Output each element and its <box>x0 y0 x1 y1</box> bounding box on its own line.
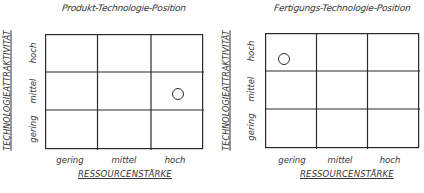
chart-title: Produkt-Technologie-Position <box>61 3 186 13</box>
x-axis-title: RESSOURCENSTÄRKE <box>78 169 172 179</box>
position-marker-circle <box>172 88 184 100</box>
x-label-gering: gering <box>45 155 95 165</box>
chart-title: Fertigungs-Technologie-Position <box>273 3 411 13</box>
y-label-hoch: hoch <box>246 32 256 70</box>
y-label-gering: gering <box>246 108 256 146</box>
x-axis-title: RESSOURCENSTÄRKE <box>300 169 394 179</box>
matrix-grid <box>265 33 420 149</box>
position-marker-circle <box>278 53 290 65</box>
x-label-hoch: hoch <box>150 155 200 165</box>
manufacturing-technology-position-panel: Fertigungs-Technologie-Position TECHNOLO… <box>212 0 424 193</box>
y-label-hoch: hoch <box>28 34 38 72</box>
x-label-gering: gering <box>267 155 317 165</box>
y-label-mittel: mittel <box>28 72 38 110</box>
y-label-mittel: mittel <box>246 70 256 108</box>
product-technology-position-panel: Produkt-Technologie-Position TECHNOLOGIE… <box>0 0 212 193</box>
x-label-mittel: mittel <box>315 155 365 165</box>
y-label-gering: gering <box>28 110 38 148</box>
y-axis-title: TECHNOLOGIEATTRAKTIVITÄT <box>222 16 231 166</box>
x-label-hoch: hoch <box>365 155 415 165</box>
y-axis-title: TECHNOLOGIEATTRAKTIVITÄT <box>3 16 12 166</box>
x-label-mittel: mittel <box>99 155 149 165</box>
